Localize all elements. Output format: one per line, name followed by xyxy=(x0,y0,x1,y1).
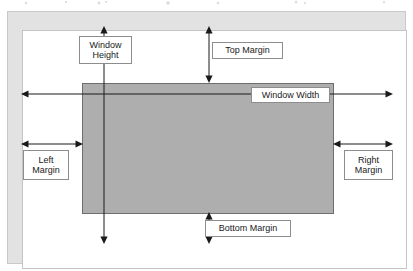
margins-diagram: Window Height Top Margin Window Width Le… xyxy=(0,0,413,271)
label-left-margin-line1: Left xyxy=(38,155,53,166)
measure-left-margin xyxy=(21,140,83,147)
label-window-height-line2: Height xyxy=(92,50,118,61)
label-window-height: Window Height xyxy=(79,36,132,64)
measure-right-margin xyxy=(333,140,393,147)
label-window-height-line1: Window xyxy=(89,40,121,51)
label-bottom-margin: Bottom Margin xyxy=(205,220,291,237)
label-right-margin-line2: Margin xyxy=(355,165,383,176)
label-right-margin: Right Margin xyxy=(344,150,393,180)
label-left-margin-line2: Margin xyxy=(32,165,60,176)
label-top-margin: Top Margin xyxy=(212,42,283,59)
label-window-width-text: Window Width xyxy=(262,90,320,101)
label-right-margin-line1: Right xyxy=(358,155,379,166)
label-top-margin-text: Top Margin xyxy=(225,45,270,56)
label-window-width: Window Width xyxy=(251,87,330,103)
label-left-margin: Left Margin xyxy=(23,150,69,180)
measure-window-width xyxy=(21,90,393,97)
label-bottom-margin-text: Bottom Margin xyxy=(219,223,278,234)
